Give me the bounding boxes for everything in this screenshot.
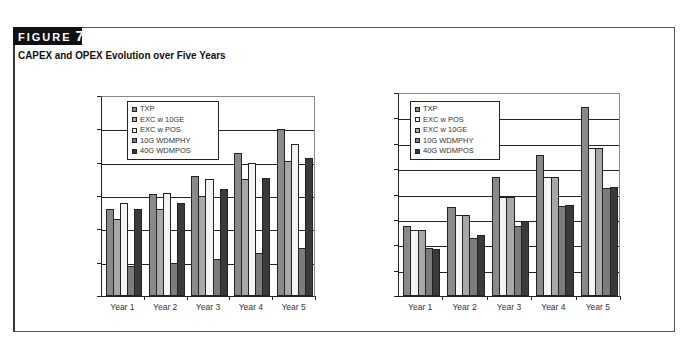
x-axis-tick-label: Year 1 [101,302,144,312]
y-axis-tick [394,93,398,94]
chart-legend: TXPEXC w 10GEEXC w POS10G WDMPHY40G WDMP… [127,101,219,160]
y-axis-tick [394,144,398,145]
x-axis-tick-label: Year 1 [398,302,442,312]
x-axis-tick [531,296,532,300]
x-axis-tick-label: Year 3 [487,302,531,312]
legend-swatch-icon [415,107,420,112]
legend-label: 40G WDMPOS [423,146,474,157]
x-axis-tick-label: Year 3 [187,302,230,312]
y-axis-tick [97,163,101,164]
legend-item: EXC w 10GE [415,125,495,136]
legend-item: 40G WDMPOS [415,146,495,157]
legend-item: EXC w POS [132,125,214,136]
legend-item: EXC w POS [415,115,495,126]
bar-40g-wdmpos [134,209,142,296]
y-axis-tick [97,263,101,264]
legend-swatch-icon [415,149,420,154]
legend-label: 10G WDMPHY [423,136,473,147]
y-axis-tick [97,129,101,130]
legend-label: 10G WDMPHY [140,136,190,147]
bar-40g-wdmpos [220,189,228,296]
x-axis-tick [576,296,577,300]
x-axis-tick [144,296,145,300]
legend-item: 10G WDMPHY [415,136,495,147]
legend-swatch-icon [132,107,137,112]
legend-swatch-icon [132,117,137,122]
bar-40g-wdmpos [521,221,529,296]
x-axis-tick-label: Year 5 [272,302,315,312]
legend-item: TXP [132,104,214,115]
y-axis-tick [97,296,101,297]
legend-swatch-icon [132,149,137,154]
x-axis-tick-label: Year 5 [576,302,620,312]
y-axis-tick [97,196,101,197]
figure-label-text: FIGURE [18,31,72,43]
x-axis-tick [442,296,443,300]
bar-40g-wdmpos [262,178,270,296]
figure-number: 7 [76,27,84,44]
legend-label: EXC w 10GE [140,115,184,126]
bar-40g-wdmpos [432,249,440,296]
legend-swatch-icon [415,138,420,143]
bar-40g-wdmpos [565,205,573,296]
legend-item: 10G WDMPHY [132,136,214,147]
legend-swatch-icon [132,128,137,133]
y-axis-tick [394,245,398,246]
x-axis-tick [620,296,621,300]
x-axis-tick [187,296,188,300]
legend-swatch-icon [415,117,420,122]
y-axis-tick [394,296,398,297]
x-axis-tick [315,296,316,300]
legend-label: EXC w POS [140,125,181,136]
legend-label: EXC w POS [423,115,464,126]
legend-swatch-icon [132,138,137,143]
y-axis-tick [394,118,398,119]
x-axis-tick [229,296,230,300]
bar-40g-wdmpos [477,235,485,296]
bar-40g-wdmpos [305,158,313,296]
legend-label: EXC w 10GE [423,125,467,136]
legend-label: TXP [423,104,438,115]
bar-40g-wdmpos [177,203,185,296]
legend-label: TXP [140,104,155,115]
y-axis-tick [394,220,398,221]
x-axis-tick-label: Year 4 [229,302,272,312]
legend-item: TXP [415,104,495,115]
y-axis-tick [394,195,398,196]
legend-item: EXC w 10GE [132,115,214,126]
figure-label: FIGURE7 [13,27,82,45]
bar-40g-wdmpos [610,187,618,296]
chart-legend: TXPEXC w POSEXC w 10GE10G WDMPHY40G WDMP… [410,101,500,160]
y-axis-tick [97,229,101,230]
x-axis-tick-label: Year 2 [442,302,486,312]
y-axis-tick [97,96,101,97]
legend-label: 40G WDMPOS [140,146,191,157]
x-axis-tick-label: Year 4 [531,302,575,312]
y-axis-tick [394,271,398,272]
legend-swatch-icon [415,128,420,133]
x-axis-tick-label: Year 2 [144,302,187,312]
x-axis-tick [272,296,273,300]
x-axis-tick [487,296,488,300]
legend-item: 40G WDMPOS [132,146,214,157]
y-axis-tick [394,169,398,170]
figure-title: CAPEX and OPEX Evolution over Five Years [18,49,226,61]
